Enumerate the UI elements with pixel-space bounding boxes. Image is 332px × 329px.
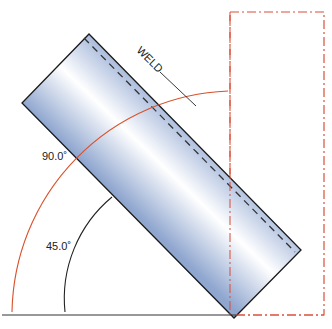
pipe-angle-diagram: WELD 90.0˚ 45.0˚ [0, 0, 332, 329]
weld-label: WELD [135, 44, 166, 75]
angle-label-45: 45.0˚ [46, 240, 71, 252]
angle-label-90: 90.0˚ [42, 150, 67, 162]
tilted-pipe [22, 34, 301, 318]
angle-arc-45 [64, 197, 112, 312]
weld-leader-line [160, 72, 196, 106]
